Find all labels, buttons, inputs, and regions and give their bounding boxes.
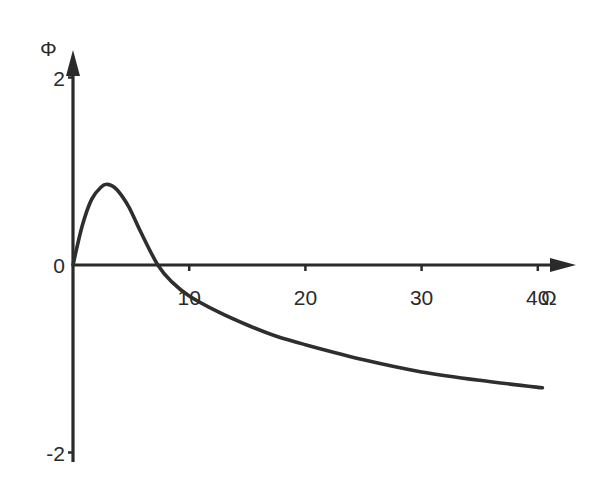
x-axis-arrow-icon: [550, 258, 576, 272]
chart: 1020304020-2 Φ Ω: [0, 0, 603, 478]
y-tick-label: 0: [53, 254, 65, 277]
x-tick-label: 30: [410, 286, 433, 309]
x-tick-label: 20: [294, 286, 317, 309]
y-axis-arrow-icon: [66, 50, 80, 76]
y-tick-label: -2: [46, 442, 65, 465]
y-tick-label: 2: [53, 67, 65, 90]
x-axis-label: Ω: [541, 286, 557, 309]
y-axis-label: Φ: [40, 37, 57, 60]
axes: [66, 50, 576, 462]
